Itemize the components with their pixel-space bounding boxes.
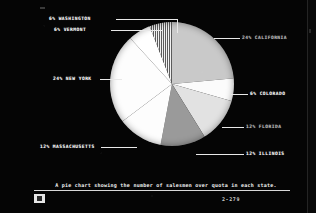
leader-line-florida [222, 127, 244, 128]
slice-label-massachusetts: 12% MASSACHUSETTS [40, 144, 95, 150]
leader-line-colorado [231, 94, 248, 95]
slice-label-colorado: 6% COLORADO [250, 91, 285, 97]
leader-line-vermont [111, 30, 163, 31]
scan-speck [40, 7, 45, 9]
slice-label-washington: 6% WASHINGTON [49, 16, 91, 22]
slice-label-california: 24% CALIFORNIA [242, 35, 287, 41]
leader-line-california [214, 38, 240, 39]
leader-line-illinois [196, 154, 244, 155]
caption-rule [34, 190, 290, 191]
scan-corner-block [34, 194, 45, 203]
slice-label-illinois: 12% ILLINOIS [246, 151, 285, 157]
scan-speck [309, 29, 311, 33]
leader-line-massachusetts [101, 147, 137, 148]
leader-line-newyork [100, 79, 122, 80]
slice-label-florida: 12% FLORIDA [246, 124, 281, 130]
scanned-figure: 6% WASHINGTON 6% VERMONT 24% NEW YORK 12… [0, 0, 316, 213]
slice-label-vermont: 6% VERMONT [54, 27, 86, 33]
pie-canvas [110, 22, 234, 146]
leader-line-washington [116, 19, 178, 20]
page-number: 2-279 [222, 196, 240, 202]
leader-tick-vermont [162, 30, 163, 39]
figure-caption: A pie chart showing the number of salesm… [46, 182, 286, 188]
slice-label-newyork: 24% NEW YORK [53, 76, 92, 82]
leader-tick-washington [177, 19, 178, 33]
pie-chart [110, 22, 234, 146]
pie-slice [110, 22, 234, 146]
